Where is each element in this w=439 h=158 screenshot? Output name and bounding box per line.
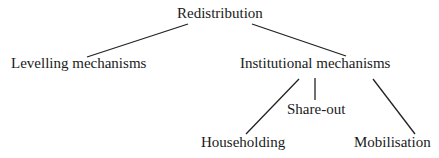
node-institutional-mechanisms: Institutional mechanisms	[240, 56, 390, 71]
edge-redistribution-levelling	[87, 24, 188, 57]
redistribution-tree-diagram: Redistribution Levelling mechanisms Inst…	[0, 0, 439, 158]
node-mobilisation: Mobilisation	[354, 135, 431, 150]
edge-redistribution-institutional	[252, 24, 346, 56]
edge-institutional-mobilisation	[373, 79, 415, 134]
node-levelling-mechanisms: Levelling mechanisms	[11, 56, 146, 71]
node-householding: Householding	[201, 135, 285, 150]
node-share-out: Share-out	[287, 102, 345, 117]
node-redistribution: Redistribution	[177, 6, 263, 21]
